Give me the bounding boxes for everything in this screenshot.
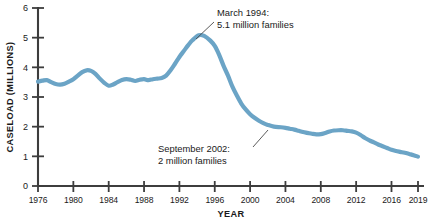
x-tick-label: 2016	[382, 195, 401, 205]
chart-annotations: March 1994:5.1 million familiesSeptember…	[158, 7, 294, 166]
x-tick-label: 2012	[347, 195, 366, 205]
x-tick-label: 2004	[276, 195, 295, 205]
y-tick-label: 0	[23, 181, 28, 191]
y-axis-title: CASELOAD (MILLIONS)	[5, 42, 15, 153]
annotation-leader-line	[253, 130, 268, 147]
x-tick-label: 1996	[205, 195, 224, 205]
x-tick-label: 1988	[135, 195, 154, 205]
x-tick-label: 2000	[241, 195, 260, 205]
caseload-series-line	[38, 35, 418, 157]
x-tick-label: 1980	[64, 195, 83, 205]
annotation-label-primary: March 1994:	[217, 7, 269, 18]
y-tick-label: 1	[23, 152, 28, 162]
annotation-label-secondary: 2 million families	[158, 155, 227, 166]
caseload-line-chart: 0123456 19761980198419881992199620002004…	[0, 0, 436, 221]
y-tick-label: 6	[23, 3, 28, 13]
y-tick-label: 4	[23, 63, 28, 73]
x-tick-label: 2019	[409, 195, 428, 205]
annotation-label-primary: September 2002:	[158, 143, 230, 154]
x-tick-label: 2008	[311, 195, 330, 205]
x-axis-title: YEAR	[218, 209, 245, 219]
y-tick-label: 3	[23, 92, 28, 102]
x-axis-ticks: 1976198019841988199219962000200420082012…	[29, 181, 428, 205]
chart-plot-area: 0123456 19761980198419881992199620002004…	[0, 0, 436, 221]
x-tick-label: 1984	[99, 195, 118, 205]
annotation-label-secondary: 5.1 million families	[217, 19, 294, 30]
y-tick-label: 2	[23, 122, 28, 132]
y-tick-label: 5	[23, 33, 28, 43]
y-axis-ticks: 0123456	[23, 3, 44, 191]
x-tick-label: 1992	[170, 195, 189, 205]
x-tick-label: 1976	[29, 195, 48, 205]
